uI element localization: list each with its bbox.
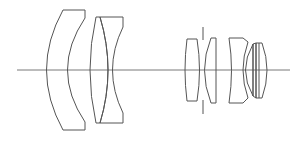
rear-cemented-doublet-rear	[256, 43, 267, 98]
rear-positive-meniscus	[205, 38, 217, 103]
lens-diagram	[0, 0, 303, 141]
